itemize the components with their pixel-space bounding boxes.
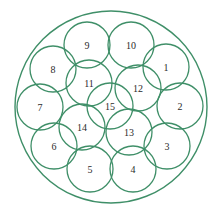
circle-label: 14: [77, 122, 87, 133]
inner-circle-10: 10: [108, 22, 154, 68]
inner-circle-8: 8: [30, 46, 76, 92]
inner-circle-5: 5: [67, 146, 113, 192]
inner-circle-4: 4: [110, 146, 156, 192]
circle-label: 3: [165, 141, 170, 152]
circle-label: 6: [52, 141, 57, 152]
circle-label: 10: [126, 40, 136, 51]
inner-circle-7: 7: [17, 84, 63, 130]
inner-circle-12: 12: [115, 65, 161, 111]
inner-circle-2: 2: [157, 83, 203, 129]
circle-packing-diagram: 123456789101112131415: [0, 0, 220, 213]
circle-label: 1: [164, 62, 169, 73]
circle-label: 12: [133, 83, 143, 94]
inner-circle-3: 3: [144, 123, 190, 169]
circle-label: 2: [178, 101, 183, 112]
inner-circle-13: 13: [106, 109, 152, 155]
circle-label: 15: [105, 101, 115, 112]
circle-label: 8: [51, 64, 56, 75]
circle-label: 5: [88, 164, 93, 175]
circle-label: 7: [38, 102, 43, 113]
inner-circle-9: 9: [64, 22, 110, 68]
circle-label: 4: [131, 164, 136, 175]
circle-label: 13: [124, 127, 134, 138]
circle-label: 9: [85, 40, 90, 51]
circle-label: 11: [84, 78, 94, 89]
inner-circles-group: 123456789101112131415: [17, 22, 203, 192]
